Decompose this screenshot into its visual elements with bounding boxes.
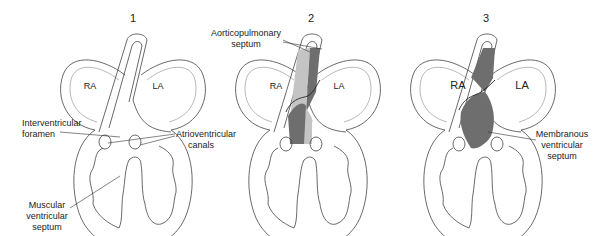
leader-av-canal-2 [140, 136, 175, 145]
dark-shading-bottom [288, 104, 306, 144]
leader-foramen [60, 132, 120, 137]
label-av-canals-2: canals [188, 140, 215, 150]
panel-3 [411, 34, 556, 236]
label-ra-2: RA [270, 81, 283, 91]
av-canal-left-3 [491, 137, 503, 151]
panel-number-1: 1 [130, 12, 136, 24]
leader-muscular-septum [70, 176, 120, 208]
label-muscular-septum-2: ventricular [26, 211, 68, 221]
label-ra-3: RA [450, 79, 466, 91]
label-la-2: LA [333, 81, 344, 91]
label-interventricular-foramen-1: Interventricular [22, 118, 82, 128]
panel-2 [236, 34, 381, 236]
panel-number-3: 3 [483, 12, 489, 24]
label-muscular-septum-3: septum [32, 222, 62, 232]
label-aorticopulmonary-2: septum [231, 39, 261, 49]
label-muscular-septum-1: Muscular [29, 200, 66, 210]
leader-membranous [488, 132, 536, 140]
dark-shading-top-3 [471, 48, 495, 92]
panel-number-2: 2 [308, 12, 314, 24]
label-membranous-2: ventricular [541, 140, 583, 150]
label-aorticopulmonary-1: Aorticopulmonary [211, 28, 282, 38]
av-canal-left [129, 135, 141, 149]
heart-septation-diagram: 1 RA LA Interventricular foramen Atriove… [0, 0, 613, 236]
label-la-1: LA [152, 81, 163, 91]
av-canal-right [99, 135, 111, 149]
label-av-canals-1: Atrioventricular [176, 129, 236, 139]
label-interventricular-foramen-2: foramen [22, 129, 55, 139]
av-canal-right-3 [453, 137, 465, 151]
label-membranous-1: Membranous [536, 129, 589, 139]
label-ra-1: RA [84, 81, 97, 91]
label-membranous-3: septum [547, 151, 577, 161]
label-la-3: LA [515, 79, 529, 91]
